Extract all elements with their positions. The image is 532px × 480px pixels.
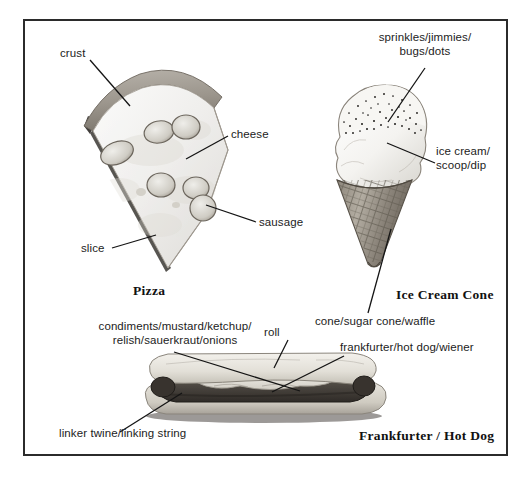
headword-pizza: Pizza xyxy=(133,283,165,299)
callout-label-crust: crust xyxy=(60,47,85,61)
callout-label-cheese: cheese xyxy=(231,128,269,142)
headword-frankfurter-hot-dog: Frankfurter / Hot Dog xyxy=(359,428,494,444)
headword-ice-cream-cone: Ice Cream Cone xyxy=(396,287,494,303)
callout-label-sausage: sausage xyxy=(259,216,303,230)
callout-label-roll: roll xyxy=(264,326,280,340)
callout-label-frankfurter: frankfurter/hot dog/wiener xyxy=(340,341,474,355)
callout-label-cone: cone/sugar cone/waffle xyxy=(315,315,435,329)
dictionary-plate-page: crust cheese sausage slice Pizza sprinkl… xyxy=(0,0,532,480)
callout-label-ice-cream: ice cream/ scoop/dip xyxy=(436,145,490,172)
callout-label-linker: linker twine/linking string xyxy=(59,427,186,441)
callout-label-sprinkles: sprinkles/jimmies/ bugs/dots xyxy=(346,31,504,58)
callout-label-slice: slice xyxy=(81,242,105,256)
plate-frame-border xyxy=(23,19,508,456)
